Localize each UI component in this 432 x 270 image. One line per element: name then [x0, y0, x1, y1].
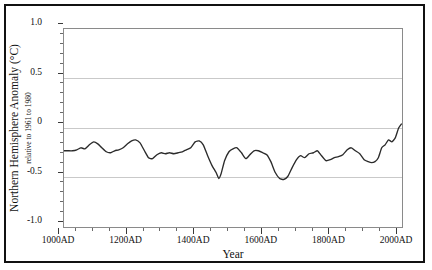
- x-axis-tick: [193, 228, 194, 234]
- plot-area: [63, 28, 403, 228]
- x-axis-minor-tick: [176, 228, 177, 231]
- y-axis-tick-label: -0.5: [27, 167, 42, 177]
- x-axis-tick: [328, 228, 329, 234]
- x-axis-minor-tick: [227, 228, 228, 231]
- x-axis-minor-tick: [143, 228, 144, 231]
- x-axis-minor-tick: [159, 228, 160, 231]
- x-axis-minor-tick: [109, 228, 110, 231]
- gridlines: [64, 79, 402, 178]
- y-axis-tick-label: 0.5: [30, 68, 42, 78]
- y-axis-tick-label: 0: [37, 117, 42, 127]
- x-axis-minor-tick: [210, 228, 211, 231]
- x-axis-tick: [58, 228, 59, 234]
- figure-border: Northern Hemisphere Anomaly (°C) relativ…: [4, 4, 425, 263]
- x-axis-minor-tick: [295, 228, 296, 231]
- x-axis-tick-label: 1200AD: [109, 236, 142, 246]
- x-axis-minor-tick: [345, 228, 346, 231]
- y-axis-sublabel: relative to 1961 to 1980: [25, 92, 33, 164]
- y-axis-tick-label: -1.0: [27, 216, 42, 226]
- x-axis-minor-tick: [362, 228, 363, 231]
- y-axis-tick: [58, 23, 63, 24]
- x-axis-tick-label: 1800AD: [312, 236, 345, 246]
- y-axis-tick-label: 1.0: [30, 18, 42, 28]
- x-axis-tick-label: 2000AD: [380, 236, 413, 246]
- x-axis-minor-tick: [244, 228, 245, 231]
- x-axis-minor-tick: [75, 228, 76, 231]
- x-axis-minor-tick: [312, 228, 313, 231]
- temperature-anomaly-line: [64, 124, 401, 179]
- x-axis-tick-label: 1400AD: [177, 236, 210, 246]
- y-axis-label: Northern Hemisphere Anomaly (°C): [9, 44, 21, 212]
- x-axis-minor-tick: [92, 228, 93, 231]
- x-axis-minor-tick: [278, 228, 279, 231]
- x-axis-minor-tick: [379, 228, 380, 231]
- x-axis-tick-label: 1000AD: [42, 236, 75, 246]
- x-axis-label: Year: [63, 249, 403, 261]
- chart-svg: [64, 29, 402, 227]
- x-axis-tick-label: 1600AD: [244, 236, 277, 246]
- x-axis-tick: [396, 228, 397, 234]
- x-axis-tick: [126, 228, 127, 234]
- x-axis-tick: [261, 228, 262, 234]
- figure: Northern Hemisphere Anomaly (°C) relativ…: [0, 0, 432, 270]
